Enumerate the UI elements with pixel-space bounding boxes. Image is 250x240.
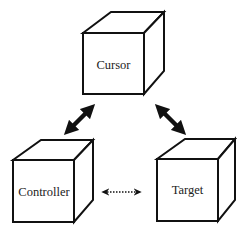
cursor-target-arrow [160, 109, 181, 130]
cursor-label: Cursor [96, 58, 131, 72]
controller-cube: Controller [13, 140, 93, 222]
target-label: Target [172, 183, 204, 197]
cursor-cube: Cursor [83, 12, 164, 94]
controller-label: Controller [18, 185, 70, 199]
target-cube: Target [157, 139, 235, 221]
diagram-canvas: Cursor Controller Target [0, 0, 250, 240]
controller-cursor-arrow [69, 109, 90, 130]
